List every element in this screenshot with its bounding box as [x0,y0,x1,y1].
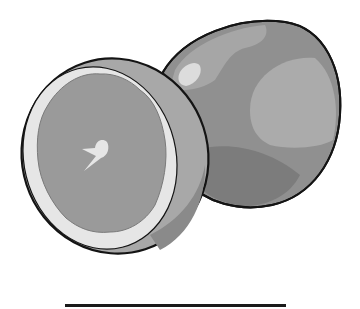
answer-line [65,304,286,307]
grapefruit-illustration [0,0,360,309]
